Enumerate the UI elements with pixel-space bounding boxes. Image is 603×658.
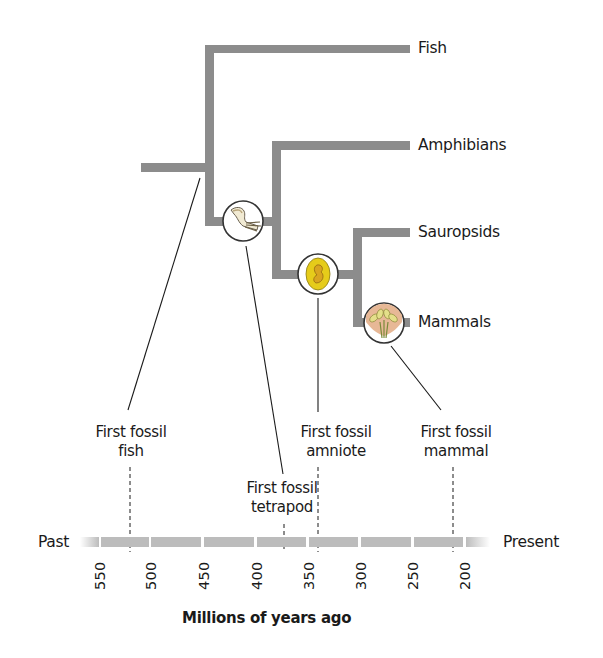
callout-line1: First fossil	[420, 423, 491, 442]
callout-line2: fish	[95, 442, 166, 461]
callout-line2: amniote	[300, 442, 371, 461]
tick-300: 300	[352, 561, 371, 590]
callout-first-fossil-mammal: First fossil mammal	[420, 423, 491, 461]
timeline-past-label: Past	[38, 533, 69, 552]
timeline-present-label: Present	[503, 533, 559, 552]
tetrapod-limb-icon	[223, 201, 263, 241]
timeline-segment	[309, 537, 358, 547]
callout-line2: mammal	[420, 442, 491, 461]
callout-first-fossil-tetrapod: First fossil tetrapod	[246, 479, 317, 517]
leader-tetrapod	[246, 246, 283, 474]
taxon-label-fish: Fish	[418, 39, 447, 58]
taxon-label-mammals: Mammals	[418, 313, 491, 332]
amniotic-egg-icon	[298, 254, 338, 294]
timeline-segment	[204, 537, 254, 547]
timeline-fade-right	[466, 537, 490, 547]
timeline-segment	[361, 537, 411, 547]
callout-line1: First fossil	[95, 423, 166, 442]
tick-450: 450	[195, 561, 214, 590]
taxon-label-amphibians: Amphibians	[418, 136, 506, 155]
axis-title: Millions of years ago	[182, 609, 351, 628]
callout-line1: First fossil	[246, 479, 317, 498]
timeline-fade-left	[80, 537, 99, 547]
callout-line2: tetrapod	[246, 498, 317, 517]
timeline-segment	[414, 537, 463, 547]
tree-and-timeline-graphics	[0, 0, 603, 658]
leader-mammal	[391, 346, 441, 410]
timeline-segment	[101, 537, 149, 547]
branch-fish	[205, 45, 410, 53]
tick-550: 550	[91, 561, 110, 590]
timeline-bar	[80, 537, 490, 547]
node-vertical-1	[205, 45, 214, 226]
phylogeny-diagram: Fish Amphibians Sauropsids Mammals First…	[0, 0, 603, 658]
tick-350: 350	[300, 561, 319, 590]
leader-fish	[128, 178, 200, 410]
tree-branches	[141, 45, 410, 327]
branch-amphibians	[272, 141, 410, 150]
branch-sauropsids	[353, 228, 410, 237]
callout-first-fossil-fish: First fossil fish	[95, 423, 166, 461]
timeline-segment	[151, 537, 201, 547]
tick-400: 400	[248, 561, 267, 590]
tick-250: 250	[404, 561, 423, 590]
callout-first-fossil-amniote: First fossil amniote	[300, 423, 371, 461]
taxon-label-sauropsids: Sauropsids	[418, 223, 500, 242]
timeline-segment	[257, 537, 306, 547]
tick-500: 500	[142, 561, 161, 590]
mammal-fan-icon	[364, 303, 404, 343]
root-branch	[141, 163, 214, 172]
node-vertical-2	[272, 141, 281, 279]
tick-200: 200	[456, 561, 475, 590]
callout-line1: First fossil	[300, 423, 371, 442]
node-vertical-3	[353, 228, 362, 327]
